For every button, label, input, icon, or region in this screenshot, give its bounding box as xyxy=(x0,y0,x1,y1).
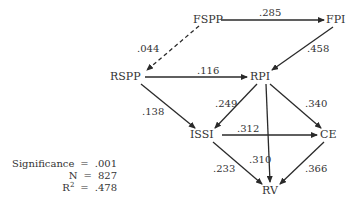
coef-fspp-fpi: .285 xyxy=(259,7,281,18)
node-rv: RV xyxy=(262,185,278,197)
coef-fspp-rspp: .044 xyxy=(137,43,159,54)
coef-fpi-rpi: .458 xyxy=(307,43,329,54)
coef-rpi-issi: .249 xyxy=(215,98,237,109)
coef-rpi-ce: .340 xyxy=(305,98,327,109)
node-fspp: FSPP xyxy=(193,14,223,26)
coef-rspp-rpi: .116 xyxy=(197,65,219,76)
edge-rpi-rv xyxy=(266,84,270,182)
r2-label: R2 xyxy=(62,182,74,194)
node-rpi: RPI xyxy=(250,71,270,83)
equals-sign: = xyxy=(84,170,92,182)
coef-rpi-rv: .310 xyxy=(249,154,271,165)
n-row: N = 827 xyxy=(0,170,117,182)
coef-issi-ce: .312 xyxy=(237,123,259,134)
n-value: 827 xyxy=(98,170,117,182)
coef-rspp-issi: .138 xyxy=(142,106,164,117)
equals-sign: = xyxy=(80,158,88,170)
r2-row: R2 = .478 xyxy=(0,182,117,194)
node-issi: ISSI xyxy=(190,129,214,141)
node-fpi: FPI xyxy=(326,14,345,26)
coef-issi-rv: .233 xyxy=(213,163,235,174)
coef-ce-rv: .366 xyxy=(305,163,327,174)
statistics-block: Significance = .001 N = 827 R2 = .478 xyxy=(0,158,117,194)
node-ce: CE xyxy=(320,129,336,141)
r2-superscript: 2 xyxy=(70,181,74,189)
r2-value: .478 xyxy=(95,182,117,194)
equals-sign: = xyxy=(80,182,88,194)
r2-label-base: R xyxy=(62,182,70,193)
significance-value: .001 xyxy=(95,158,117,170)
significance-label: Significance xyxy=(12,158,74,170)
significance-row: Significance = .001 xyxy=(0,158,117,170)
node-rspp: RSPP xyxy=(110,71,141,83)
